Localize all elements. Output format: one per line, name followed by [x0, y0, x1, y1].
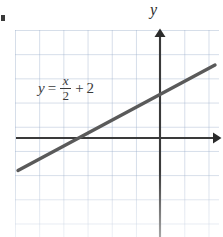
equation-constant: 2: [87, 81, 95, 96]
equation-plus-sign: +: [75, 81, 83, 96]
equation-denominator: 2: [60, 89, 71, 103]
equation-fraction: x 2: [60, 74, 71, 102]
graph-figure: y y = x 2 + 2: [0, 0, 223, 237]
function-line-group: [0, 0, 223, 237]
equation-equals-sign: =: [48, 81, 56, 96]
equation-annotation: y = x 2 + 2: [38, 74, 94, 102]
y-axis-label: y: [150, 2, 157, 18]
edge-tick-mark: [1, 15, 5, 21]
equation-lhs: y: [38, 81, 45, 96]
equation-numerator: x: [61, 74, 71, 88]
